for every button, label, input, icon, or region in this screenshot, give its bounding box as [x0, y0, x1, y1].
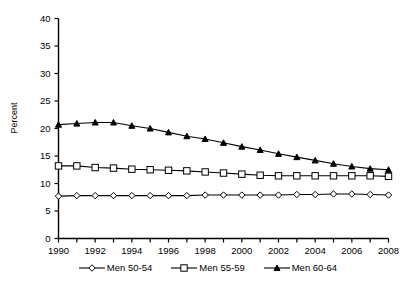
filled-triangle-icon [264, 262, 290, 274]
x-tick-label: 1994 [112, 245, 152, 256]
y-tick-label: 40 [25, 13, 51, 24]
plot-area [0, 0, 416, 285]
legend-item-label: Men 50-54 [107, 263, 152, 273]
legend-item[interactable]: Men 55-59 [171, 262, 244, 274]
y-tick-label: 15 [25, 150, 51, 161]
line-chart: Percent 0510152025303540 199019921994199… [0, 0, 416, 285]
y-tick-label: 30 [25, 68, 51, 79]
open-square-icon [171, 262, 197, 274]
open-diamond-icon [79, 262, 105, 274]
legend-item-label: Men 55-59 [199, 263, 244, 273]
y-tick-label: 20 [25, 123, 51, 134]
x-tick-label: 1992 [75, 245, 115, 256]
series-men-50-54 [55, 191, 391, 200]
x-tick-label: 1996 [149, 245, 189, 256]
axis-tick-marks [55, 19, 389, 243]
chart-legend: Men 50-54Men 55-59Men 60-64 [0, 262, 416, 274]
x-tick-label: 2002 [259, 245, 299, 256]
x-tick-label: 1998 [185, 245, 225, 256]
y-tick-label: 35 [25, 40, 51, 51]
y-axis-title: Percent [9, 88, 19, 148]
y-tick-label: 0 [25, 233, 51, 244]
legend-item[interactable]: Men 50-54 [79, 262, 152, 274]
data-series-layer [55, 119, 391, 199]
y-tick-label: 5 [25, 205, 51, 216]
x-tick-label: 2008 [369, 245, 409, 256]
x-tick-label: 1990 [39, 245, 79, 256]
legend-item-label: Men 60-64 [292, 263, 337, 273]
y-tick-label: 10 [25, 178, 51, 189]
y-tick-label: 25 [25, 95, 51, 106]
x-tick-label: 2004 [295, 245, 335, 256]
axis-lines [59, 19, 389, 239]
series-men-60-64 [56, 119, 392, 172]
x-tick-label: 2006 [332, 245, 372, 256]
x-tick-label: 2000 [222, 245, 262, 256]
legend-item[interactable]: Men 60-64 [264, 262, 337, 274]
